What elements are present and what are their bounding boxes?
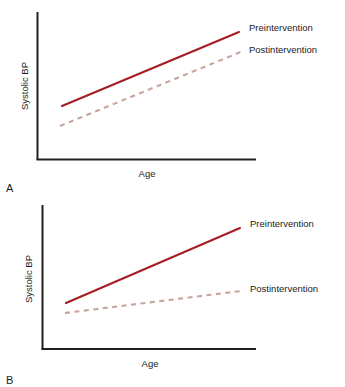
series-line-postintervention-a xyxy=(60,51,243,126)
chart-panel-a: Systolic BP Age Preintervention Postinte… xyxy=(0,0,345,196)
panel-b-plot: Systolic BP Age Preintervention Postinte… xyxy=(0,191,345,387)
legend-label-preintervention-a: Preintervention xyxy=(249,22,313,33)
y-axis-label-b: Systolic BP xyxy=(23,255,34,303)
series-line-preintervention-b xyxy=(66,228,240,303)
legend-label-postintervention-a: Postintervention xyxy=(249,44,317,55)
y-axis-label-a: Systolic BP xyxy=(19,62,30,110)
panel-letter-b: B xyxy=(6,374,13,386)
panel-a-plot: Systolic BP Age Preintervention Postinte… xyxy=(0,0,345,196)
x-axis-label-a: Age xyxy=(139,168,156,179)
series-line-preintervention-a xyxy=(62,32,239,106)
legend-label-postintervention-b: Postintervention xyxy=(250,283,318,294)
series-line-postintervention-b xyxy=(65,291,241,313)
figure-container: Systolic BP Age Preintervention Postinte… xyxy=(0,0,345,387)
x-axis-label-b: Age xyxy=(142,358,159,369)
chart-panel-b: Systolic BP Age Preintervention Postinte… xyxy=(0,191,345,387)
legend-label-preintervention-b: Preintervention xyxy=(250,218,314,229)
